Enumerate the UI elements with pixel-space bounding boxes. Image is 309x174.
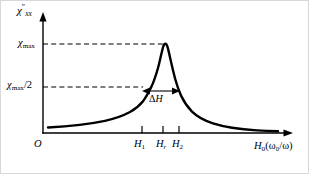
linewidth-label: ΔH — [149, 94, 163, 104]
y-tick-label-chi-max: χmax — [18, 38, 35, 50]
origin-label: O — [34, 139, 42, 150]
axes-group — [39, 12, 293, 137]
hr-symbol: H — [156, 138, 164, 149]
hr-subscript: r — [164, 143, 167, 151]
h1-symbol: H — [134, 138, 142, 149]
x-axis-arrowhead — [284, 129, 294, 136]
x-tick-label-hr: Hr — [156, 139, 166, 151]
resonance-curve-group — [48, 44, 278, 131]
guide-lines-group — [43, 44, 165, 87]
x-tick-label-h1: H1 — [134, 139, 145, 151]
h2-subscript: 2 — [180, 143, 184, 151]
chi-half-subscript: max — [12, 84, 24, 92]
chi-max-subscript: max — [23, 42, 35, 50]
x-tick-marks-group — [142, 126, 179, 133]
y-axis-arrowhead — [39, 12, 46, 22]
y-axis-label: χ″xx — [17, 4, 32, 18]
h2-symbol: H — [172, 138, 180, 149]
h1-subscript: 1 — [142, 143, 146, 151]
x-axis-label: H0(ω₀/ω) — [254, 141, 293, 153]
linewidth-h-symbol: H — [155, 93, 162, 104]
x-axis-label-symbol: H — [254, 140, 262, 151]
x-axis-label-paren: (ω₀/ω) — [265, 140, 292, 151]
x-tick-label-h2: H2 — [172, 139, 183, 151]
y-tick-label-chi-max-half: χmax/2 — [7, 80, 32, 92]
chi-half-suffix: /2 — [24, 79, 32, 90]
figure-container: χ″xx χmax χmax/2 O H1 Hr H2 H0(ω₀/ω) ΔH — [0, 0, 309, 174]
lineshape-curve — [48, 44, 278, 131]
y-axis-label-subscript: xx — [25, 9, 32, 18]
